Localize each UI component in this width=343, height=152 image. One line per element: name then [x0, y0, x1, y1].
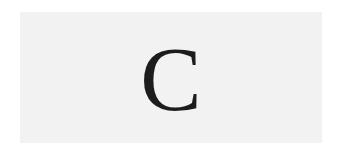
- letter-card: C: [20, 12, 322, 143]
- letter-glyph: C: [20, 12, 322, 143]
